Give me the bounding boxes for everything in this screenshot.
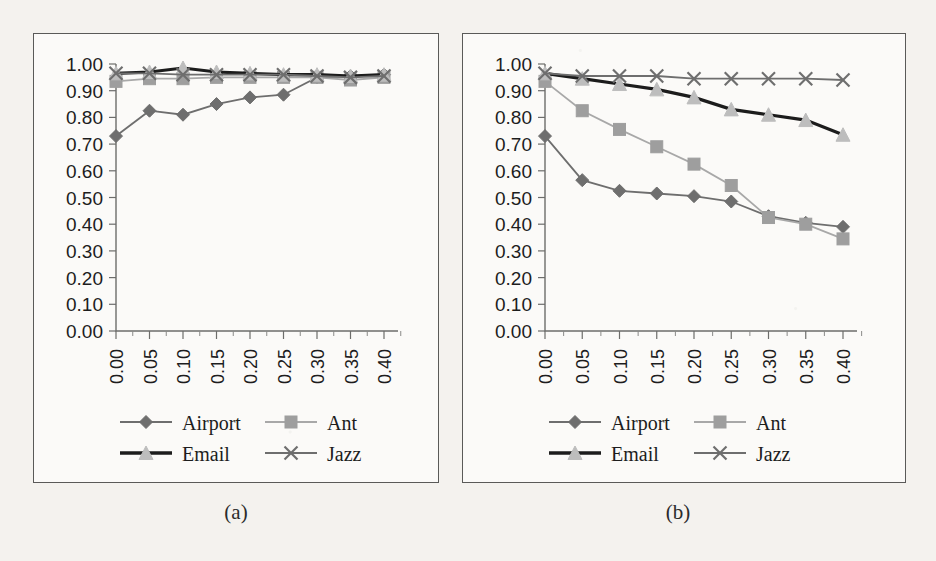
legend-label-email: Email (182, 443, 230, 465)
x-tick-label: 0.40 (375, 349, 395, 384)
legend-label-jazz: Jazz (327, 443, 362, 465)
marker-diamond (177, 108, 190, 121)
legend-label-airport: Airport (611, 412, 670, 435)
chart-panel-a: 0.000.100.200.300.400.500.600.700.800.90… (33, 33, 439, 483)
x-tick-label: 0.10 (174, 349, 194, 384)
x-tick-label: 0.00 (536, 349, 556, 384)
y-tick-label: 0.60 (495, 161, 532, 182)
marker-square (688, 158, 700, 170)
y-tick-label: 0.10 (495, 294, 532, 315)
marker-diamond (650, 187, 663, 200)
legend-item-email[interactable]: Email (549, 443, 659, 465)
x-tick-label: 0.40 (834, 349, 854, 384)
x-tick-label: 0.15 (648, 349, 668, 384)
marker-diamond (244, 91, 257, 104)
series-line-airport (116, 75, 384, 136)
y-tick-label: 0.80 (495, 107, 532, 128)
legend-label-ant: Ant (756, 412, 786, 434)
marker-diamond (725, 195, 738, 208)
x-tick-label: 0.20 (241, 349, 261, 384)
chart-panel-b: 0.000.100.200.300.400.500.600.700.800.90… (462, 33, 906, 483)
y-tick-label: 0.90 (66, 81, 103, 102)
legend-label-email: Email (611, 443, 659, 465)
y-tick-label: 0.00 (495, 321, 532, 342)
legend-label-ant: Ant (327, 412, 357, 434)
caption-a: (a) (176, 500, 296, 525)
x-tick-label: 0.30 (760, 349, 780, 384)
axis-lines (116, 64, 398, 331)
x-tick-label: 0.10 (611, 349, 631, 384)
y-tick-label: 0.60 (66, 161, 103, 182)
y-tick-label: 0.40 (66, 214, 103, 235)
legend-item-email[interactable]: Email (120, 443, 230, 465)
y-tick-label: 1.00 (495, 54, 532, 75)
marker-square (614, 123, 626, 135)
y-tick-label: 0.30 (495, 241, 532, 262)
x-tick-label: 0.25 (275, 349, 295, 384)
y-tick-label: 0.50 (66, 188, 103, 209)
marker-diamond (210, 98, 223, 111)
chart-a-svg[interactable]: 0.000.100.200.300.400.500.600.700.800.90… (34, 34, 436, 480)
legend-label-jazz: Jazz (756, 443, 791, 465)
y-tick-label: 0.10 (66, 294, 103, 315)
marker-square (285, 416, 297, 428)
marker-diamond (569, 416, 582, 429)
legend-item-airport[interactable]: Airport (120, 412, 241, 435)
marker-diamond (688, 190, 701, 203)
x-tick-label: 0.20 (685, 349, 705, 384)
y-tick-label: 1.00 (66, 54, 103, 75)
marker-square (763, 212, 775, 224)
marker-square (576, 105, 588, 117)
legend: AirportAntEmailJazz (549, 412, 791, 465)
y-tick-label: 0.00 (66, 321, 103, 342)
marker-diamond (277, 88, 290, 101)
legend: AirportAntEmailJazz (120, 412, 362, 465)
axes-group: 0.000.100.200.300.400.500.600.700.800.90… (66, 54, 401, 384)
marker-square (725, 179, 737, 191)
legend-item-jazz[interactable]: Jazz (694, 443, 791, 465)
legend-item-airport[interactable]: Airport (549, 412, 670, 435)
legend-item-ant[interactable]: Ant (694, 412, 786, 434)
y-tick-label: 0.90 (495, 81, 532, 102)
x-tick-label: 0.05 (573, 349, 593, 384)
marker-square (800, 218, 812, 230)
legend-label-airport: Airport (182, 412, 241, 435)
x-tick-label: 0.25 (722, 349, 742, 384)
y-tick-label: 0.20 (66, 268, 103, 289)
marker-square (714, 416, 726, 428)
figure-container: 0.000.100.200.300.400.500.600.700.800.90… (0, 0, 936, 561)
y-tick-label: 0.70 (495, 134, 532, 155)
y-tick-label: 0.80 (66, 107, 103, 128)
legend-item-jazz[interactable]: Jazz (265, 443, 362, 465)
marker-diamond (140, 416, 153, 429)
y-tick-label: 0.20 (495, 268, 532, 289)
y-tick-label: 0.30 (66, 241, 103, 262)
x-tick-label: 0.35 (797, 349, 817, 384)
x-tick-label: 0.05 (141, 349, 161, 384)
legend-item-ant[interactable]: Ant (265, 412, 357, 434)
caption-b: (b) (618, 500, 738, 525)
chart-b-svg[interactable]: 0.000.100.200.300.400.500.600.700.800.90… (463, 34, 903, 480)
x-tick-label: 0.35 (342, 349, 362, 384)
marker-square (837, 233, 849, 245)
y-tick-label: 0.40 (495, 214, 532, 235)
marker-diamond (613, 184, 626, 197)
y-tick-label: 0.50 (495, 188, 532, 209)
marker-square (651, 141, 663, 153)
x-tick-label: 0.00 (107, 349, 127, 384)
x-tick-label: 0.15 (208, 349, 228, 384)
y-tick-label: 0.70 (66, 134, 103, 155)
x-tick-label: 0.30 (308, 349, 328, 384)
marker-diamond (837, 220, 850, 233)
series-line-airport (545, 136, 843, 227)
